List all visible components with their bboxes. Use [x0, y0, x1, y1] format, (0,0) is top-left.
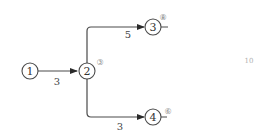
node-1-label: 1: [27, 65, 34, 78]
node-1: 1: [22, 63, 38, 79]
node-2-label: 2: [84, 65, 91, 78]
edge-2-4-duration: 3: [117, 121, 123, 132]
side-number: 10: [245, 57, 254, 65]
network-diagram: 3 5 3 1 2 ③ 3 ⑧ 4 ⑥ 10: [0, 0, 256, 137]
node-2-time: ③: [96, 58, 103, 67]
edge-1-2-duration: 3: [54, 76, 60, 87]
edge-2-3-duration: 5: [125, 29, 131, 40]
node-4-label: 4: [150, 111, 157, 124]
node-3-time: ⑧: [159, 13, 166, 22]
node-4: 4 ⑥: [145, 107, 172, 125]
node-2: 2 ③: [79, 58, 104, 79]
node-3: 3 ⑧: [145, 13, 167, 35]
edge-1-2: 3: [38, 71, 77, 87]
node-3-label: 3: [150, 21, 157, 34]
edge-2-4: 3: [87, 79, 144, 132]
node-4-time: ⑥: [164, 107, 171, 116]
